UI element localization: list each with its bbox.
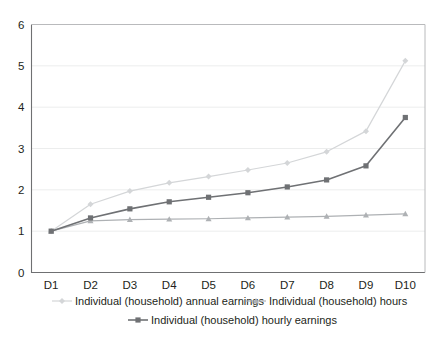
legend-item: Individual (household) hours <box>246 295 408 307</box>
y-tick-label: 5 <box>18 60 24 72</box>
legend-item: Individual (household) annual earnings <box>52 295 264 307</box>
x-tick-label: D10 <box>395 279 416 291</box>
legend-item: Individual (household) hourly earnings <box>128 314 337 326</box>
data-point-marker <box>324 149 330 155</box>
data-point-marker <box>49 229 54 234</box>
y-tick-label: 3 <box>18 143 24 155</box>
data-point-marker <box>167 199 172 204</box>
y-tick-label: 0 <box>18 267 24 279</box>
data-point-marker <box>88 215 93 220</box>
x-tick-label: D5 <box>201 279 216 291</box>
series-line <box>51 118 405 232</box>
gridlines <box>32 25 426 232</box>
data-point-marker <box>245 167 251 173</box>
data-point-marker <box>127 206 132 211</box>
data-point-marker <box>127 188 133 194</box>
data-point-marker <box>363 163 368 168</box>
y-tick-label: 6 <box>18 19 24 31</box>
legend-label: Individual (household) annual earnings <box>75 295 264 307</box>
series-line <box>51 61 405 231</box>
data-point-marker <box>166 180 172 186</box>
y-tick-label: 2 <box>18 184 24 196</box>
chart-legend: Individual (household) annual earningsIn… <box>52 295 408 326</box>
x-tick-label: D2 <box>83 279 98 291</box>
series-line <box>51 214 405 231</box>
data-point-marker <box>363 128 369 134</box>
y-axis-tick-labels: 6543210 <box>18 19 25 279</box>
data-point-marker <box>285 184 290 189</box>
legend-marker <box>135 317 140 322</box>
line-chart: 6543210 D1D2D3D4D5D6D7D8D9D10 Individual… <box>0 0 440 337</box>
data-point-marker <box>206 174 212 180</box>
legend-marker <box>59 298 65 304</box>
y-tick-label: 4 <box>18 101 25 113</box>
x-tick-label: D6 <box>241 279 256 291</box>
series-2 <box>48 211 408 234</box>
data-point-marker <box>402 58 408 64</box>
data-series-layer <box>48 58 408 234</box>
chart-container: 6543210 D1D2D3D4D5D6D7D8D9D10 Individual… <box>0 0 440 337</box>
x-tick-label: D7 <box>280 279 295 291</box>
x-tick-label: D3 <box>123 279 138 291</box>
legend-label: Individual (household) hourly earnings <box>151 314 337 326</box>
data-point-marker <box>324 177 329 182</box>
data-point-marker <box>206 195 211 200</box>
data-point-marker <box>403 115 408 120</box>
x-tick-label: D8 <box>319 279 334 291</box>
x-tick-label: D1 <box>44 279 59 291</box>
y-tick-label: 1 <box>18 225 24 237</box>
x-tick-label: D9 <box>359 279 374 291</box>
data-point-marker <box>245 190 250 195</box>
data-point-marker <box>284 160 290 166</box>
legend-label: Individual (household) hours <box>269 295 408 307</box>
x-tick-label: D4 <box>162 279 177 291</box>
series-1 <box>48 58 408 234</box>
x-axis-tick-labels: D1D2D3D4D5D6D7D8D9D10 <box>44 279 416 291</box>
